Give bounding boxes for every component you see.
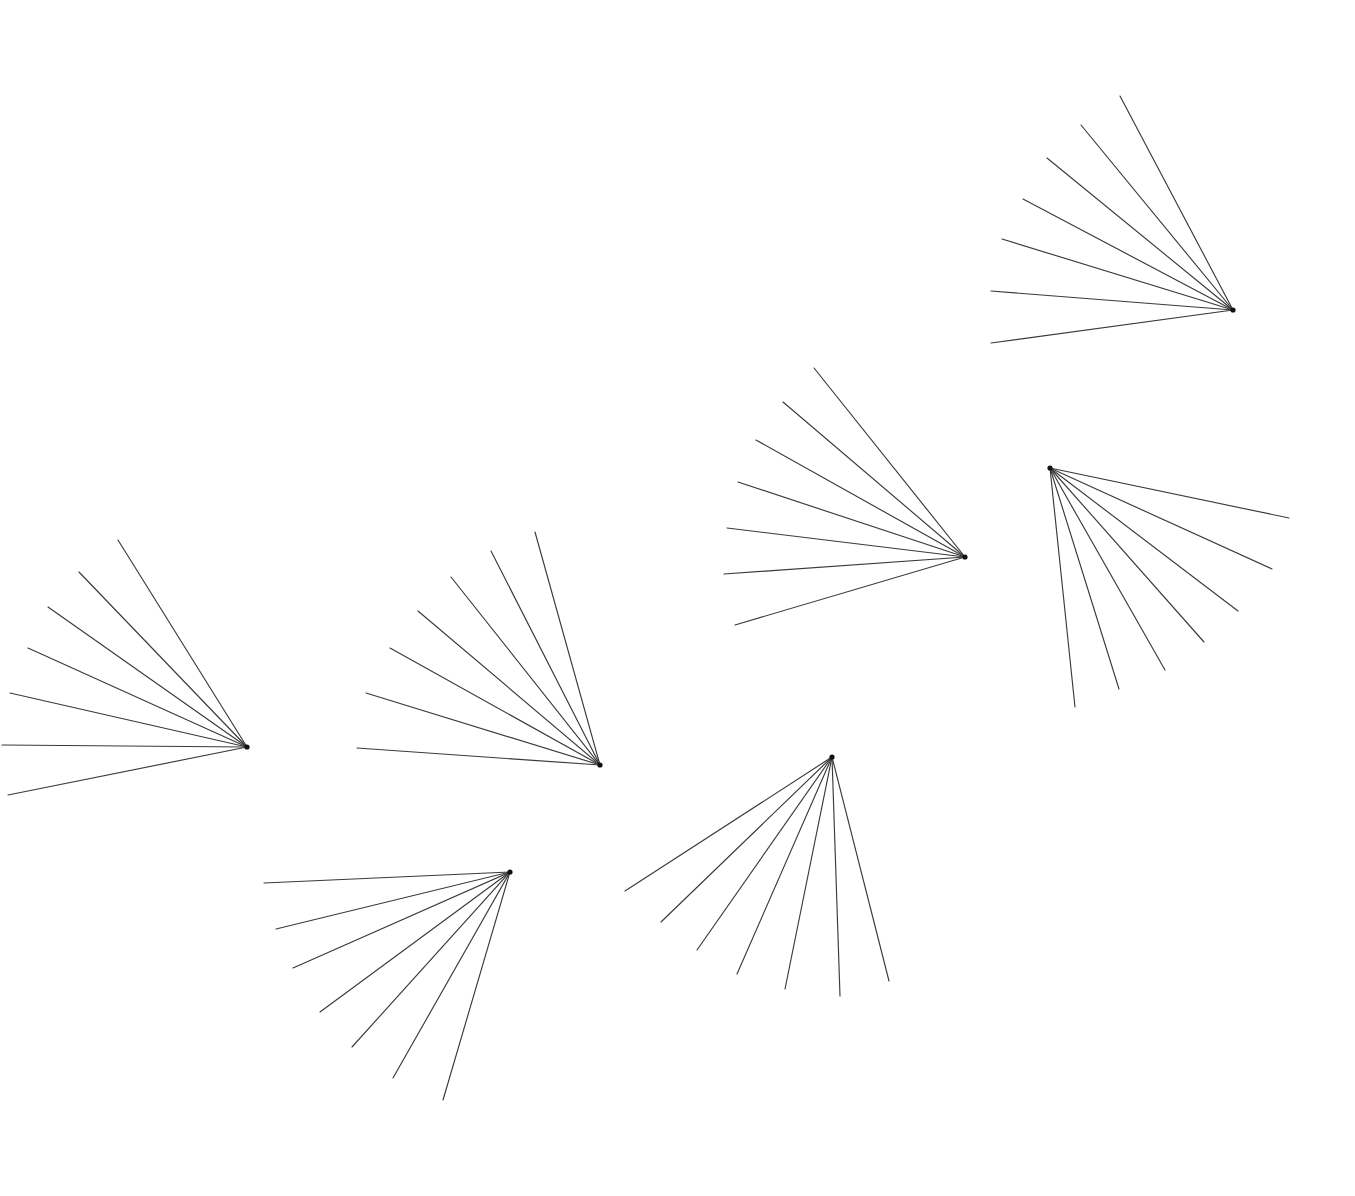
fan-vertex	[244, 744, 249, 749]
fan-vertex	[507, 869, 512, 874]
fan-vertex	[597, 762, 602, 767]
background-rect	[0, 0, 1355, 1196]
fan-vertex	[829, 754, 834, 759]
fan-vertex	[1047, 465, 1052, 470]
fan-diagram-svg	[0, 0, 1355, 1196]
fan-vertex	[1230, 307, 1235, 312]
diagram-canvas	[0, 0, 1355, 1196]
fan-vertex	[962, 554, 967, 559]
